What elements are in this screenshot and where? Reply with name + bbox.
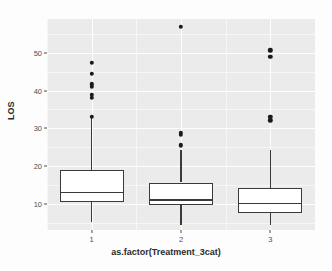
whisker-upper [91,117,92,170]
x-tick-label-1: 1 [90,235,94,244]
outlier-point [268,55,272,59]
gridline-minor-vertical [136,19,137,230]
x-tick-label-2: 2 [179,235,183,244]
y-tick-label: 20 [20,161,42,170]
outlier-point [89,71,93,75]
y-tick-mark [44,52,47,53]
outlier-point [268,118,272,122]
y-tick-label: 30 [20,124,42,133]
median-line-1 [60,192,124,194]
whisker-upper [180,150,181,182]
whisker-upper [270,150,271,188]
y-tick-label: 40 [20,86,42,95]
x-axis-title: as.factor(Treatment_3cat) [0,247,332,257]
y-axis-title: LOS [6,106,16,120]
outlier-point [89,60,93,64]
x-tick-mark [181,230,182,233]
whisker-lower [270,213,271,226]
outlier-point [89,115,93,119]
outlier-point [268,48,272,52]
y-tick-label: 10 [20,199,42,208]
box-2 [149,183,213,206]
boxplot-figure: 1020304050 123 LOS as.factor(Treatment_3… [0,0,332,271]
gridline-minor-vertical [47,19,48,230]
x-tick-mark [91,230,92,233]
y-tick-mark [44,128,47,129]
y-tick-mark [44,165,47,166]
whisker-lower [91,202,92,223]
y-tick-label: 50 [20,48,42,57]
box-1 [60,170,124,202]
plot-panel [47,19,315,230]
x-tick-label-3: 3 [268,235,272,244]
box-3 [238,188,302,213]
whisker-lower [180,205,181,225]
y-tick-mark [44,90,47,91]
outlier-point [179,24,183,28]
median-line-3 [238,203,302,205]
x-tick-mark [270,230,271,233]
y-tick-mark [44,203,47,204]
median-line-2 [149,199,213,201]
gridline-minor-vertical [226,19,227,230]
